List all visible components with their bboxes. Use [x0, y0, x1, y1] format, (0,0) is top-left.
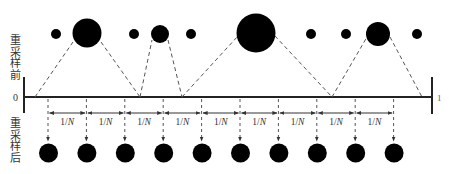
particle-large	[73, 19, 102, 48]
dashed-line	[182, 36, 238, 97]
before-samples	[51, 14, 422, 53]
interval-label: 1/N	[214, 117, 228, 127]
dashed-line	[390, 37, 422, 97]
resampled-particle	[39, 144, 58, 163]
particle-small	[186, 29, 196, 39]
label-before-resampling: 重采样前	[6, 34, 20, 80]
dashed-line	[35, 42, 73, 97]
after-samples	[39, 144, 404, 163]
axis-end-label: 1	[437, 93, 442, 103]
resampled-particle	[346, 144, 365, 163]
interval-label: 1/N	[176, 117, 190, 127]
particle-small	[306, 29, 316, 39]
interval-label: 1/N	[252, 117, 266, 127]
diagram-canvas: 0 1 1/N1/N1/N1/N1/N1/N1	[0, 0, 449, 174]
interval-label: 1/N	[368, 117, 382, 127]
dashed-line	[332, 37, 367, 97]
particle-small	[51, 29, 61, 39]
resampled-particle	[154, 144, 173, 163]
particle-largest	[237, 14, 276, 53]
particle-small	[341, 29, 351, 39]
interval-label: 1/N	[329, 117, 343, 127]
particle-medium	[366, 22, 390, 46]
particle-small	[412, 29, 422, 39]
resampling-diagram: 重采样前 重采样后 0 1	[0, 0, 449, 174]
particle-small	[129, 29, 139, 39]
interval-label: 1/N	[291, 117, 305, 127]
dashed-line	[275, 36, 332, 97]
resampled-particle	[385, 144, 404, 163]
resampled-particle	[231, 144, 250, 163]
interval-label: 1/N	[99, 117, 113, 127]
resampled-particle	[269, 144, 288, 163]
dashed-line	[168, 40, 182, 97]
axis-start-label: 0	[13, 92, 18, 103]
resampled-particle	[308, 144, 327, 163]
dashed-line	[101, 42, 140, 97]
resampled-particle	[193, 144, 212, 163]
interval-arrows: 1/N1/N1/N1/N1/N1/N1/N1/N1/N	[50, 113, 393, 127]
resampled-particle	[77, 144, 96, 163]
particle-medium	[151, 25, 169, 43]
dashed-line	[140, 40, 152, 97]
interval-label: 1/N	[137, 117, 151, 127]
resampled-particle	[116, 144, 135, 163]
interval-label: 1/N	[60, 117, 74, 127]
label-after-resampling: 重采样后	[6, 117, 20, 163]
